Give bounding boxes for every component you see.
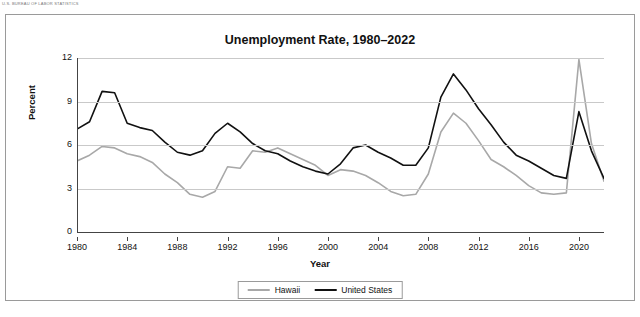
x-tick-mark: [579, 237, 580, 241]
x-axis-ticks: 1980198419881992199620002004200820122016…: [77, 237, 604, 251]
x-tick-label: 1996: [258, 242, 298, 252]
legend-swatch: [314, 289, 336, 291]
x-tick-mark: [479, 237, 480, 241]
x-tick-label: 2016: [509, 242, 549, 252]
gridline: [77, 58, 604, 59]
x-tick-label: 1988: [157, 242, 197, 252]
x-tick-label: 2000: [308, 242, 348, 252]
gridline: [77, 189, 604, 190]
x-tick-mark: [529, 237, 530, 241]
x-tick-label: 2012: [459, 242, 499, 252]
chart-container: Unemployment Rate, 1980–2022 Percent Yea…: [5, 14, 635, 301]
legend-label: Hawaii: [275, 285, 301, 295]
gridline: [77, 102, 604, 103]
x-tick-mark: [228, 237, 229, 241]
legend-swatch: [248, 289, 270, 291]
x-tick-label: 2008: [408, 242, 448, 252]
y-tick-label: 9: [46, 96, 72, 106]
y-axis-ticks: 036912: [42, 58, 72, 232]
x-tick-mark: [378, 237, 379, 241]
legend-item[interactable]: Hawaii: [248, 285, 301, 295]
chart-legend: HawaiiUnited States: [238, 281, 403, 299]
y-tick-label: 3: [46, 183, 72, 193]
gridline: [77, 145, 604, 146]
y-axis-label: Percent: [26, 85, 37, 120]
x-tick-label: 1980: [57, 242, 97, 252]
y-tick-label: 0: [46, 226, 72, 236]
x-tick-mark: [127, 237, 128, 241]
x-tick-mark: [278, 237, 279, 241]
x-tick-mark: [428, 237, 429, 241]
gridline: [77, 232, 604, 233]
x-tick-label: 2020: [559, 242, 599, 252]
y-axis-line: [77, 58, 78, 232]
x-tick-mark: [328, 237, 329, 241]
plot-area: [77, 58, 604, 232]
y-tick-label: 6: [46, 139, 72, 149]
x-tick-mark: [77, 237, 78, 241]
chart-title: Unemployment Rate, 1980–2022: [6, 33, 634, 47]
x-tick-label: 2004: [358, 242, 398, 252]
series-line: [77, 74, 604, 178]
series-line: [77, 59, 604, 197]
y-tick-label: 12: [46, 52, 72, 62]
x-tick-label: 1984: [107, 242, 147, 252]
x-axis-label: Year: [6, 258, 634, 269]
legend-item[interactable]: United States: [314, 285, 392, 295]
source-note: U.S. BUREAU OF LABOR STATISTICS: [2, 1, 79, 6]
legend-label: United States: [341, 285, 392, 295]
x-tick-mark: [177, 237, 178, 241]
x-tick-label: 1992: [208, 242, 248, 252]
